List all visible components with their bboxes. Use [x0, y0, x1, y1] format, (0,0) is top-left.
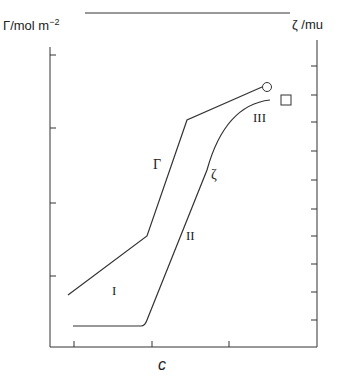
- x-axis-label: c: [158, 356, 166, 374]
- chart-canvas: [0, 0, 343, 379]
- region-label-2: II: [186, 228, 195, 244]
- y-right-axis-label: ζ /mu: [292, 17, 323, 32]
- x-ticks: [74, 341, 229, 347]
- circle-marker-icon: [263, 83, 272, 92]
- region-label-1: I: [112, 283, 116, 299]
- gamma-curve-label: Γ: [153, 157, 161, 173]
- left-ticks: [50, 55, 56, 276]
- right-ticks: [311, 66, 317, 320]
- y-left-axis-label: Γ/mol m−2: [3, 17, 59, 33]
- zeta-curve: [73, 100, 270, 326]
- zeta-curve-label: ζ: [211, 167, 217, 183]
- square-marker-icon: [281, 95, 291, 105]
- region-label-3: III: [253, 110, 266, 126]
